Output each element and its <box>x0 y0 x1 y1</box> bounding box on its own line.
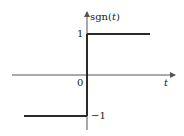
function-label: sgn(t) <box>90 12 120 22</box>
x-axis-label: t <box>164 78 168 88</box>
low-label: −1 <box>91 111 106 121</box>
origin-label: 0 <box>77 78 83 88</box>
high-label: 1 <box>77 29 83 39</box>
